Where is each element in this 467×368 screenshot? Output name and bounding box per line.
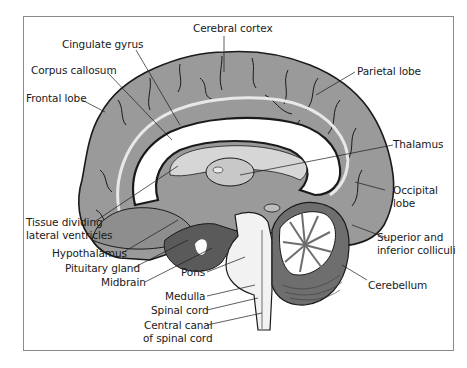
label-cerebral-cortex: Cerebral cortex [193,22,273,35]
label-occipital-lobe: Occipital lobe [393,184,438,209]
colliculi-shape [264,204,280,212]
thalamus-shape [206,158,254,186]
label-occipital-line1: Occipital [393,184,438,197]
label-occipital-line2: lobe [393,197,438,210]
label-colliculi-line1: Superior and [377,231,455,244]
label-tissue-line1: Tissue dividing [26,216,112,229]
label-frontal-lobe: Frontal lobe [26,92,87,105]
label-thalamus: Thalamus [393,138,443,151]
massa-intermedia [213,167,223,173]
label-tissue-line2: lateral ventricles [26,229,112,242]
label-corpus-callosum: Corpus callosum [31,64,117,77]
label-central-canal: Central canal of spinal cord [143,319,212,344]
label-spinal-cord: Spinal cord [151,304,209,317]
label-midbrain: Midbrain [101,276,146,289]
label-colliculi-line2: inferior colliculi [377,244,455,257]
label-hypothalamus: Hypothalamus [52,247,127,260]
label-pons: Pons [181,266,205,279]
label-parietal-lobe: Parietal lobe [357,65,421,78]
label-colliculi: Superior and inferior colliculi [377,231,455,256]
label-pituitary-gland: Pituitary gland [65,262,140,275]
label-canal-line2: of spinal cord [143,332,212,345]
label-cerebellum: Cerebellum [368,279,427,292]
label-medulla: Medulla [165,290,205,303]
label-tissue-dividing: Tissue dividing lateral ventricles [26,216,112,241]
label-canal-line1: Central canal [143,319,212,332]
label-cingulate-gyrus: Cingulate gyrus [62,38,143,51]
